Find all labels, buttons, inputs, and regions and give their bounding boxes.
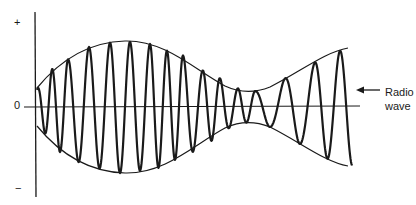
envelope-top xyxy=(37,41,348,91)
arrowhead-icon xyxy=(356,87,364,94)
carrier-wave xyxy=(37,42,352,173)
axis-label-negative: − xyxy=(15,182,21,195)
zero-axis xyxy=(24,106,360,107)
radio-wave-label-line2: wave xyxy=(385,99,414,113)
axis-label-positive: + xyxy=(14,16,20,29)
axis-label-zero: 0 xyxy=(14,99,20,112)
am-wave-diagram xyxy=(0,0,416,205)
radio-wave-label-line1: Radio xyxy=(385,85,414,99)
radio-wave-label: Radio wave xyxy=(385,85,414,113)
vertical-axis xyxy=(35,12,36,197)
